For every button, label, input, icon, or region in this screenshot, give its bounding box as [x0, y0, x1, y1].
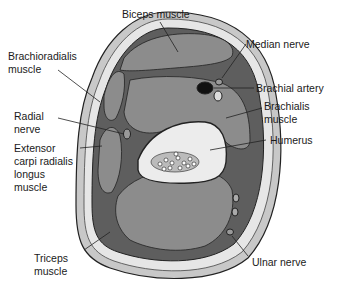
brachial-vein: [214, 91, 222, 101]
ulnar-vessel-2: [232, 208, 238, 216]
label-brachial-artery: Brachial artery: [256, 82, 324, 95]
label-humerus: Humerus: [270, 134, 313, 147]
brachial-artery: [197, 82, 213, 94]
radial-nerve: [124, 129, 131, 139]
ulnar-nerve: [227, 229, 234, 235]
label-brachialis-muscle: Brachialis muscle: [264, 100, 310, 126]
ulnar-vessel-1: [233, 194, 239, 202]
label-triceps-muscle: Triceps muscle: [34, 252, 68, 278]
median-nerve: [216, 79, 223, 85]
label-ulnar-nerve: Ulnar nerve: [252, 256, 306, 269]
label-brachioradialis-muscle: Brachioradialis muscle: [8, 50, 77, 76]
bone-marrow: [151, 152, 199, 172]
label-median-nerve: Median nerve: [246, 38, 310, 51]
label-extensor-carpi-radialis-longus-muscle: Extensor carpi radialis longus muscle: [14, 142, 73, 194]
label-biceps-muscle: Biceps muscle: [122, 8, 190, 21]
label-radial-nerve: Radial nerve: [14, 110, 44, 136]
